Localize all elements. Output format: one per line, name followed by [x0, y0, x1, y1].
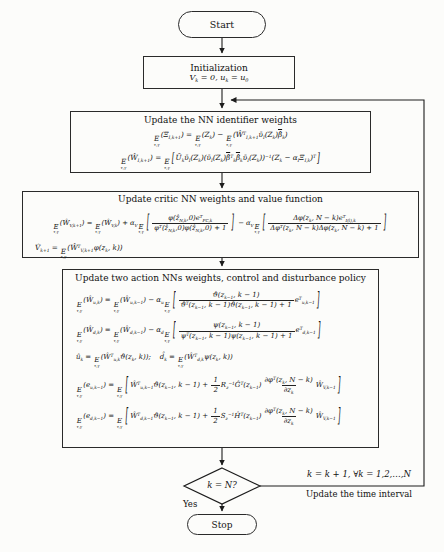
action-node: Update two action NNs weights, control a… — [62, 269, 379, 448]
stop-node: Stop — [187, 514, 257, 535]
identifier-node: Update the NN identifier weights Eτ,γ(ΞI… — [70, 111, 371, 173]
action-eq5: Eτ,γ(ed,k−1) = Eτ,γ[ŴTd,k−1ϑ(zk−1, k − 1… — [76, 407, 378, 428]
decision-label: k = N? — [184, 480, 260, 490]
start-label: Start — [210, 19, 234, 30]
critic-eq1: Eτ,γ(ŴV,k+1) = Eτ,γ(ŴV,k) + αVEτ,γ[φ(ẑN,… — [53, 214, 388, 234]
action-eq4: Eτ,γ(eu,k−1) = Eτ,γ[ŴTu,k−1ϑ(zk−1, k − 1… — [76, 376, 378, 397]
critic-eq2: V̂k+1 = Eτ,γ(ŴTV,k+1φ(zk, k)) — [35, 244, 123, 259]
yes-label: Yes — [183, 499, 197, 509]
loop-increment-label: k = k + 1, ∀k = 1,2,…,N — [285, 469, 433, 479]
init-equation: Vk = 0, uk = u0 — [189, 74, 248, 82]
action-title: Update two action NNs weights, control a… — [63, 273, 378, 283]
action-eq1: Eτ,γ(Ŵu,k) = Eτ,γ(Ŵu,k−1) − αuEτ,γ[ϑ(zk−… — [76, 291, 378, 312]
identifier-eq2: Eτ,γ(ŴI,k+1) = Eτ,γ[ŪkῡI(Zk)(ῡI(Zk)β̂Tkβ… — [120, 154, 321, 169]
init-title: Initialization — [190, 63, 248, 73]
init-node: Initialization Vk = 0, uk = u0 — [143, 56, 295, 89]
loop-update-label: Update the time interval — [285, 489, 433, 499]
action-eq2: Eτ,γ(Ŵd,k) = Eτ,γ(Ŵd,k−1) − αdEτ,γ[ψ(zk−… — [76, 321, 378, 342]
start-node: Start — [178, 11, 266, 38]
critic-title: Update critic NN weights and value funct… — [23, 194, 418, 204]
stop-label: Stop — [212, 520, 233, 530]
identifier-title: Update the NN identifier weights — [144, 115, 297, 125]
flowchart-canvas: Start Initialization Vk = 0, uk = u0 Upd… — [0, 0, 444, 552]
critic-node: Update critic NN weights and value funct… — [22, 191, 419, 258]
action-eq3: ûk = Eτ,γ(ŴTu,kϑ(zk, k)); d̂k = Eτ,γ(ŴTd… — [76, 354, 378, 369]
identifier-eq1: Eτ,γ(ΞI,k+1) = Eτ,γ(Zk) − Eτ,γ(ŴTI,k+1ῡI… — [153, 131, 287, 146]
